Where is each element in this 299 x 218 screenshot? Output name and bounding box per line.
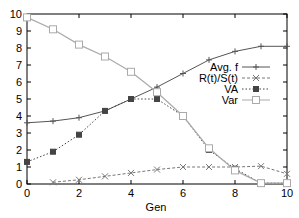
series-r-t-s-t- [50, 163, 290, 185]
y-tick-label: 7 [16, 59, 22, 71]
x-tick-label: 0 [24, 187, 30, 199]
y-tick-label: 4 [16, 110, 22, 122]
x-tick-label: 8 [232, 187, 238, 199]
y-tick-label: 3 [16, 127, 22, 139]
x-axis-label: Gen [146, 201, 167, 213]
line-chart: 0246810012345678910 Avg. fR(t)/S(t)VAVar… [0, 0, 299, 218]
y-tick-label: 1 [16, 161, 22, 173]
x-tick-label: 6 [180, 187, 186, 199]
y-tick-label: 0 [16, 178, 22, 190]
y-tick-label: 9 [16, 25, 22, 37]
y-tick-label: 10 [10, 8, 22, 20]
y-tick-label: 8 [16, 42, 22, 54]
x-tick-label: 10 [281, 187, 293, 199]
chart-legend: Avg. fR(t)/S(t)VAVar [199, 61, 270, 106]
x-tick-label: 2 [76, 187, 82, 199]
series-avg-f [24, 43, 290, 126]
x-tick-label: 4 [128, 187, 134, 199]
chart-axes: 0246810012345678910 [10, 8, 293, 199]
y-tick-label: 5 [16, 93, 22, 105]
legend-label: Var [222, 94, 239, 106]
legend-item: Var [222, 94, 270, 106]
y-tick-label: 6 [16, 76, 22, 88]
series-va [25, 97, 290, 186]
chart-canvas: 0246810012345678910 Avg. fR(t)/S(t)VAVar… [0, 0, 299, 218]
y-tick-label: 2 [16, 144, 22, 156]
